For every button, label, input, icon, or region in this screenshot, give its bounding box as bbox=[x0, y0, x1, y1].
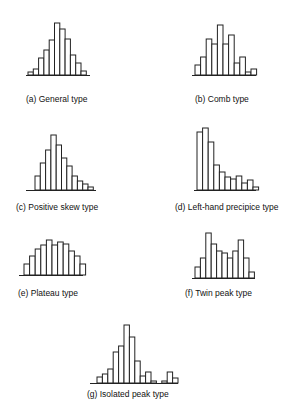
histogram-bar bbox=[238, 240, 243, 278]
histogram-bar bbox=[70, 55, 75, 75]
histogram-bar bbox=[28, 72, 33, 75]
histogram-plateau: (e) Plateau type bbox=[0, 215, 150, 310]
histogram-bar bbox=[240, 57, 246, 75]
histogram-bar bbox=[135, 361, 140, 383]
histogram-bar bbox=[51, 135, 56, 190]
histogram-bar bbox=[40, 163, 45, 190]
histogram-bar bbox=[234, 63, 240, 75]
caption-left-hand-precipice: (d) Left-hand precipice type bbox=[175, 202, 278, 212]
histogram-bar bbox=[173, 378, 178, 383]
histogram-bar bbox=[55, 23, 60, 75]
histogram-bar bbox=[72, 176, 77, 190]
histogram-bar bbox=[197, 132, 203, 190]
histogram-bar bbox=[251, 69, 257, 75]
histogram-bar bbox=[83, 184, 88, 190]
histogram-positive-skew: (c) Positive skew type bbox=[0, 100, 150, 215]
histogram-bar bbox=[88, 187, 93, 190]
histogram-bar bbox=[129, 337, 134, 383]
histogram-bar bbox=[242, 183, 248, 190]
histogram-bar bbox=[206, 233, 211, 278]
histogram-bar bbox=[195, 65, 201, 75]
histogram-left-hand-precipice-chart bbox=[150, 100, 301, 215]
histogram-bar bbox=[223, 44, 229, 75]
histogram-bar bbox=[225, 177, 231, 190]
histogram-positive-skew-chart bbox=[0, 100, 150, 215]
histogram-bar bbox=[217, 251, 222, 278]
histogram-bar bbox=[167, 372, 172, 383]
histogram-bar bbox=[236, 176, 242, 190]
caption-positive-skew: (c) Positive skew type bbox=[16, 202, 98, 212]
histogram-bar bbox=[33, 69, 38, 75]
histogram-general: (a) General type bbox=[0, 0, 150, 100]
histogram-bar bbox=[49, 40, 54, 75]
histogram-bar bbox=[81, 71, 86, 75]
histogram-bar bbox=[46, 150, 51, 190]
histogram-bar bbox=[124, 325, 129, 383]
histogram-bar bbox=[146, 372, 151, 383]
histogram-bar bbox=[247, 180, 253, 190]
histogram-bar bbox=[219, 172, 225, 190]
histogram-bar bbox=[52, 245, 58, 275]
histogram-bar bbox=[35, 176, 40, 190]
histogram-bar bbox=[119, 346, 124, 383]
histogram-isolated-peak-chart bbox=[70, 310, 230, 415]
histogram-bar bbox=[245, 72, 251, 75]
histogram-bar bbox=[113, 352, 118, 383]
histogram-bar bbox=[62, 158, 67, 190]
histogram-bar bbox=[63, 244, 69, 275]
histogram-bar bbox=[60, 29, 65, 75]
histogram-bar bbox=[211, 244, 216, 278]
histogram-bar bbox=[102, 374, 107, 383]
histogram-bar bbox=[253, 187, 259, 190]
histogram-bar bbox=[97, 377, 102, 383]
histogram-bar bbox=[65, 39, 70, 75]
histogram-bar bbox=[41, 245, 47, 275]
histogram-bar bbox=[195, 267, 200, 278]
histogram-bar bbox=[46, 240, 52, 275]
histogram-bar bbox=[203, 128, 209, 190]
histogram-bar bbox=[35, 249, 41, 275]
histogram-isolated-peak: (g) Isolated peak type bbox=[70, 310, 230, 415]
histogram-bar bbox=[231, 179, 237, 190]
histogram-bar bbox=[77, 181, 82, 190]
histogram-bar bbox=[76, 63, 81, 75]
histogram-bar bbox=[249, 272, 254, 278]
histogram-bar bbox=[217, 25, 223, 75]
caption-twin-peak: (f) Twin peak type bbox=[185, 288, 252, 298]
histogram-bar bbox=[208, 142, 214, 190]
histogram-twin-peak: (f) Twin peak type bbox=[150, 215, 301, 310]
histogram-bar bbox=[201, 57, 207, 75]
histogram-bar bbox=[212, 44, 218, 75]
histogram-comb: (b) Comb type bbox=[150, 0, 301, 100]
caption-isolated-peak: (g) Isolated peak type bbox=[87, 389, 169, 399]
histogram-bar bbox=[30, 256, 36, 275]
histogram-bar bbox=[24, 264, 30, 275]
caption-plateau: (e) Plateau type bbox=[18, 288, 78, 298]
histogram-bar bbox=[244, 258, 249, 278]
histogram-bar bbox=[108, 369, 113, 383]
histogram-general-chart bbox=[0, 0, 150, 100]
histogram-bar bbox=[56, 145, 61, 190]
histogram-bar bbox=[140, 376, 145, 383]
histogram-left-hand-precipice: (d) Left-hand precipice type bbox=[150, 100, 301, 215]
histogram-bar bbox=[74, 256, 80, 275]
histogram-bar bbox=[214, 165, 220, 190]
histogram-comb-chart bbox=[150, 0, 301, 100]
histogram-bar bbox=[200, 258, 205, 278]
histogram-bar bbox=[80, 264, 86, 275]
histogram-bar bbox=[229, 35, 235, 75]
histogram-bar bbox=[222, 253, 227, 278]
histogram-bar bbox=[227, 258, 232, 278]
histogram-bar bbox=[206, 39, 212, 75]
histogram-bar bbox=[44, 50, 49, 75]
histogram-bar bbox=[233, 251, 238, 278]
histogram-bar bbox=[162, 381, 167, 383]
histogram-bar bbox=[151, 381, 156, 383]
histogram-bar bbox=[58, 242, 64, 275]
histogram-bar bbox=[67, 166, 72, 190]
histogram-bar bbox=[39, 58, 44, 75]
histogram-bar bbox=[69, 251, 75, 275]
